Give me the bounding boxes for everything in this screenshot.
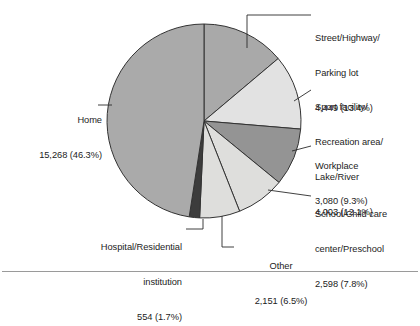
- slice-label-hospital: Hospital/Residential institution 554 (1.…: [68, 219, 182, 326]
- figure-bottom-rule: [2, 271, 418, 272]
- slice-label-school-line1: School/Child care: [315, 209, 419, 221]
- slice-label-home: Home 15,268 (46.3%): [10, 92, 102, 185]
- slice-label-other: Other 2,151 (6.5%): [238, 238, 324, 326]
- leader-line-other: [222, 216, 234, 247]
- leader-line-school: [268, 190, 311, 196]
- slice-label-workplace-line1: Workplace: [315, 161, 419, 173]
- slice-label-sport-facility-line1: Sport facility/: [315, 102, 419, 114]
- slice-label-other-value: 2,151 (6.5%): [238, 296, 324, 308]
- slice-label-hospital-line1: Hospital/Residential: [68, 242, 182, 254]
- slice-label-hospital-line2: institution: [68, 277, 182, 289]
- slice-label-school-line2: center/Preschool: [315, 244, 419, 256]
- slice-label-home-value: 15,268 (46.3%): [10, 150, 102, 162]
- leader-line-hospital: [186, 219, 203, 229]
- slice-label-street-highway-line2: Parking lot: [315, 68, 419, 80]
- slice-label-school-value: 2,598 (7.8%): [315, 279, 419, 291]
- slice-label-hospital-value: 554 (1.7%): [68, 312, 182, 324]
- slice-label-school: School/Child care center/Preschool 2,598…: [315, 186, 419, 314]
- slice-label-home-line1: Home: [10, 115, 102, 127]
- slice-label-street-highway-line1: Street/Highway/: [315, 33, 419, 45]
- pie-slice-home: [107, 24, 204, 217]
- pie-slices: [107, 24, 301, 218]
